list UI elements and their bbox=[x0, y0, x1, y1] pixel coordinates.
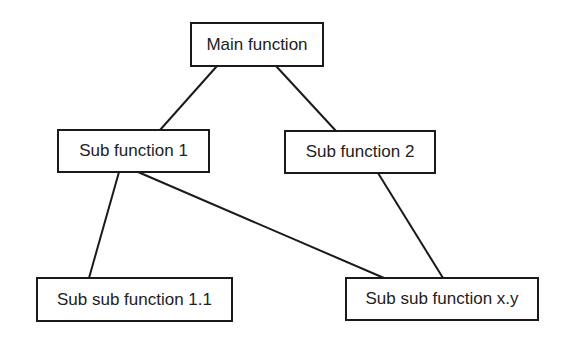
edge-main-sub1 bbox=[160, 66, 217, 130]
node-label: Sub function 2 bbox=[306, 142, 415, 162]
node-sub-sub-function-x-y: Sub sub function x.y bbox=[345, 277, 539, 321]
node-label: Main function bbox=[206, 35, 307, 55]
node-sub-function-2: Sub function 2 bbox=[284, 130, 436, 174]
node-label: Sub function 1 bbox=[79, 141, 188, 161]
node-label: Sub sub function 1.1 bbox=[57, 290, 212, 310]
edge-sub1-sub11 bbox=[89, 172, 119, 278]
edge-sub1-subxy bbox=[138, 172, 384, 278]
edge-main-sub2 bbox=[276, 66, 336, 131]
node-sub-function-1: Sub function 1 bbox=[57, 129, 210, 173]
node-label: Sub sub function x.y bbox=[365, 289, 518, 309]
node-sub-sub-function-1-1: Sub sub function 1.1 bbox=[36, 277, 233, 322]
node-main-function: Main function bbox=[190, 22, 324, 67]
edge-sub2-subxy bbox=[378, 173, 443, 278]
